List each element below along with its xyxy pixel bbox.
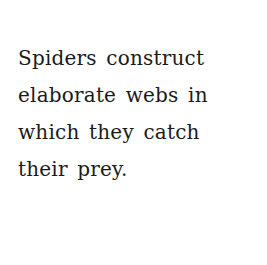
caption-line-1: Spiders construct [18, 40, 258, 77]
caption-line-4: their prey. [18, 151, 258, 188]
caption-text: Spiders construct elaborate webs in whic… [18, 40, 258, 188]
caption-line-3: which they catch [18, 114, 258, 151]
caption-line-2: elaborate webs in [18, 77, 258, 114]
